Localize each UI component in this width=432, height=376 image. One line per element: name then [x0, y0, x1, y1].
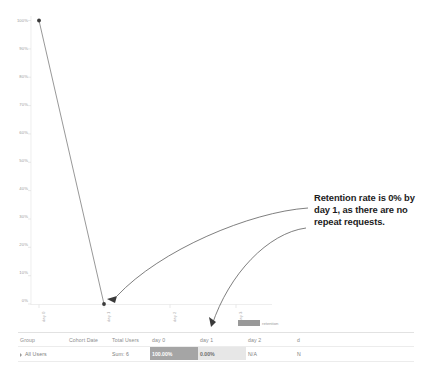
table-header-cohort-date[interactable]: Cohort Date: [69, 337, 98, 343]
table-header-total-users[interactable]: Total Users: [112, 337, 139, 343]
chart-legend: retention: [238, 320, 278, 326]
retention-chart-page: 100% 90% 80% 70% 60% 50% 40% 30% 20% 10%…: [0, 0, 432, 376]
annotation-text: Retention rate is 0% by day 1, as there …: [314, 192, 430, 229]
table-divider: [18, 332, 414, 333]
table-cell-day-2: N/A: [248, 351, 257, 357]
table-header-day-2[interactable]: day 2: [248, 337, 261, 343]
table-divider: [18, 361, 414, 362]
annotation-arrow-to-chart-point: [117, 208, 308, 296]
chart-area: 100% 90% 80% 70% 60% 50% 40% 30% 20% 10%…: [0, 0, 432, 330]
chart-svg: [0, 0, 432, 330]
annotation-arrow-to-table-cell: [212, 228, 306, 325]
data-point-day-0[interactable]: [37, 19, 41, 23]
legend-swatch-retention: [238, 320, 260, 326]
x-axis-ticks: [39, 305, 236, 309]
table-header-group[interactable]: Group: [20, 337, 35, 343]
annotation-arrow-to-table-cell-head: [209, 317, 216, 327]
table-cell-day-1: 0.00%: [200, 351, 215, 357]
data-point-day-1[interactable]: [102, 302, 106, 306]
table-cell-total-users: Sum: 6: [112, 351, 129, 357]
table-header-day-1[interactable]: day 1: [200, 337, 213, 343]
table-cell-day-0: 100.00%: [152, 351, 172, 357]
legend-label-retention: retention: [262, 321, 278, 326]
table-cell-day-3: N: [297, 351, 301, 357]
table-header-day-3[interactable]: d: [297, 337, 300, 343]
retention-line-series: [39, 21, 104, 305]
cohort-data-table: Group Cohort Date Total Users day 0 day …: [0, 330, 432, 376]
annotation-arrow-to-chart-point-head: [107, 296, 117, 303]
row-expander-icon[interactable]: [20, 353, 22, 357]
table-cell-group: All Users: [25, 351, 47, 357]
table-header-day-0[interactable]: day 0: [152, 337, 165, 343]
y-axis-ticks: [28, 21, 31, 305]
